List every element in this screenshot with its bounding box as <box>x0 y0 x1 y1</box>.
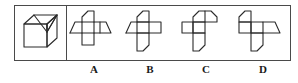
stem-cube-cell <box>14 5 66 61</box>
option-label-a: A <box>82 62 106 76</box>
option-label-d: D <box>251 62 275 76</box>
cube-net-d-icon <box>234 5 291 61</box>
option-d-cell[interactable] <box>234 5 291 61</box>
option-label-b: B <box>138 62 162 76</box>
cube-net-c-icon <box>178 5 234 61</box>
cube-net-b-icon <box>122 5 178 61</box>
option-label-c: C <box>194 62 218 76</box>
figure-panel <box>14 5 291 61</box>
option-a-cell[interactable] <box>66 5 122 61</box>
cube-solid-icon <box>14 5 66 61</box>
cube-net-a-icon <box>66 5 122 61</box>
option-c-cell[interactable] <box>178 5 234 61</box>
question-figure-root: A B C D <box>0 0 298 83</box>
option-b-cell[interactable] <box>122 5 178 61</box>
option-labels-row: A B C D <box>14 62 291 80</box>
